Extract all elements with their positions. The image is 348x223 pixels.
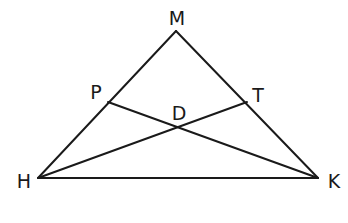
label-p: P: [90, 81, 101, 103]
side-mh: [38, 31, 176, 178]
label-m: M: [169, 7, 185, 29]
label-t: T: [251, 84, 264, 106]
label-k: K: [328, 170, 341, 192]
side-mk: [176, 31, 318, 178]
triangle-diagram: M P T D H K: [0, 0, 348, 223]
label-h: H: [17, 170, 31, 192]
label-d: D: [172, 102, 187, 124]
